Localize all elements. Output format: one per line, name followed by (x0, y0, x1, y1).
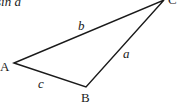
vertex-label-c: C (168, 0, 177, 7)
caption-fragment: sin a (0, 0, 21, 9)
triangle-shape (14, 0, 164, 87)
vertex-label-a: A (0, 59, 10, 74)
vertex-label-b: B (81, 90, 90, 105)
triangle-diagram: sin a A B C a b c (0, 0, 181, 106)
side-label-b: b (78, 18, 85, 33)
side-label-c: c (38, 76, 44, 91)
side-label-a: a (123, 46, 130, 61)
